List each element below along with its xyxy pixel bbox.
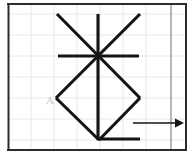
figure-canvas: A <box>0 0 189 154</box>
figure-svg: A <box>0 0 189 154</box>
vertex-label-a: A <box>46 94 54 106</box>
